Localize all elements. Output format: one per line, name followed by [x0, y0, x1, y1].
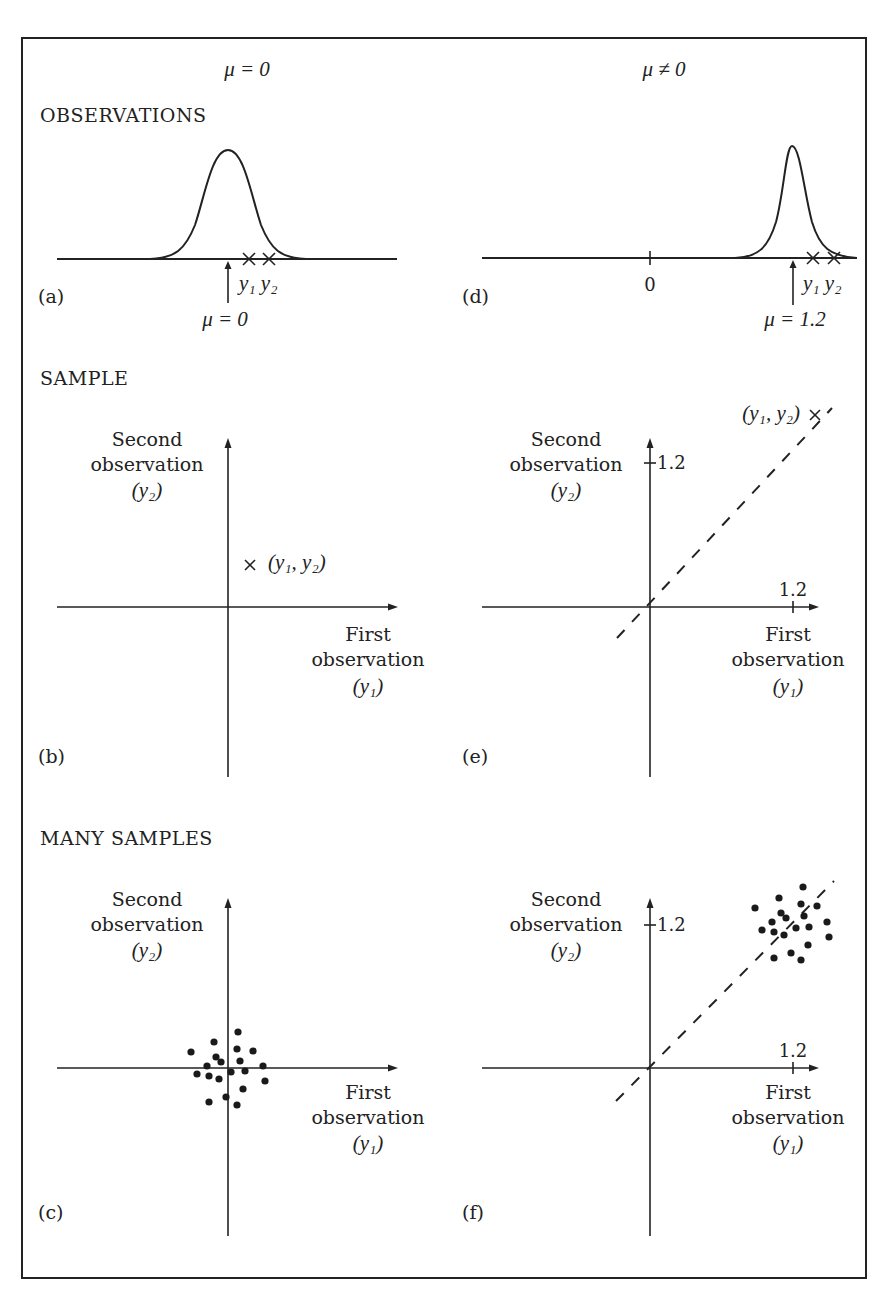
scatter-point: [770, 954, 777, 961]
y-tick-label: 1.2: [657, 914, 686, 935]
panel-d: 0 y₁ y₂ μ = 1.2 (d): [462, 146, 857, 331]
arrowhead-icon: [647, 438, 654, 448]
arrowhead-icon: [388, 604, 398, 611]
y-axis-title-line1: Second: [531, 428, 602, 450]
y-axis-title-line3: (y₂): [551, 478, 582, 502]
scatter-point: [210, 1038, 217, 1045]
section-title-observations: OBSERVATIONS: [40, 104, 207, 126]
x-axis-title-line1: First: [765, 623, 811, 645]
scatter-point: [805, 923, 812, 930]
panel-e: 1.2 1.2 (y₁, y₂) Second observation (y₂)…: [462, 401, 845, 777]
x-axis-title-line2: observation: [731, 648, 844, 670]
section-title-many-samples: MANY SAMPLES: [40, 827, 213, 849]
y-axis-title-line1: Second: [112, 428, 183, 450]
x-axis-title-line2: observation: [311, 1106, 424, 1128]
panel-label-a: (a): [38, 285, 64, 307]
arrowhead-icon: [809, 604, 819, 611]
x-axis-title-line3: (y₁): [353, 674, 384, 698]
scatter-point: [823, 918, 830, 925]
y-axis-title-line3: (y₂): [551, 938, 582, 962]
scatter-point: [239, 1085, 246, 1092]
panel-a: y₁ y₂ μ = 0 (a): [38, 150, 397, 331]
scatter-point: [217, 1058, 224, 1065]
zero-tick-label: 0: [644, 274, 655, 295]
scatter-point: [203, 1062, 210, 1069]
panel-b: Second observation (y₂) First observatio…: [38, 428, 425, 777]
x-axis-title-line1: First: [345, 623, 391, 645]
scatter-point: [751, 904, 758, 911]
scatter-point: [825, 933, 832, 940]
scatter-point: [236, 1057, 243, 1064]
y-axis-title-line3: (y₂): [132, 478, 163, 502]
scatter-point: [768, 918, 775, 925]
sample-point-label: (y₁, y₂): [742, 401, 800, 425]
scatter-point: [205, 1072, 212, 1079]
panel-label-f: (f): [462, 1201, 484, 1223]
arrowhead-icon: [647, 898, 654, 908]
x-axis-title-line1: First: [345, 1081, 391, 1103]
scatter-point: [222, 1093, 229, 1100]
x-axis-title-line2: observation: [731, 1106, 844, 1128]
mean-label: μ = 0: [201, 307, 248, 331]
scatter-point: [775, 894, 782, 901]
y-axis-title-line2: observation: [90, 913, 203, 935]
scatter-point: [780, 931, 787, 938]
scatter-point: [792, 924, 799, 931]
scatter-point: [758, 926, 765, 933]
panel-label-c: (c): [38, 1201, 63, 1223]
arrowhead-icon: [790, 260, 797, 268]
observation-labels: y₁ y₂: [237, 271, 278, 295]
scatter-point: [813, 902, 820, 909]
x-tick-label: 1.2: [779, 1040, 808, 1061]
scatter-point: [233, 1045, 240, 1052]
scatter-point: [261, 1077, 268, 1084]
scatter-point: [259, 1062, 266, 1069]
x-axis-title-line3: (y₁): [773, 674, 804, 698]
panel-label-b: (b): [38, 745, 65, 767]
mean-label: μ = 1.2: [763, 307, 826, 331]
y-axis-title-line1: Second: [112, 888, 183, 910]
scatter-point: [241, 1067, 248, 1074]
x-axis-title-line1: First: [765, 1081, 811, 1103]
sample-point-label: (y₁, y₂): [268, 550, 326, 574]
sample-point-cross-icon: [810, 410, 820, 420]
arrowhead-icon: [225, 898, 232, 908]
arrowhead-icon: [225, 261, 232, 269]
normal-density-curve: [150, 150, 306, 259]
arrowhead-icon: [388, 1065, 398, 1072]
panel-label-e: (e): [462, 745, 488, 767]
scatter-point: [800, 912, 807, 919]
panel-label-d: (d): [462, 285, 489, 307]
y-axis-title-line2: observation: [509, 913, 622, 935]
y-axis-title-line3: (y₂): [132, 938, 163, 962]
scatter-point: [770, 928, 777, 935]
left-column-header: μ = 0: [223, 57, 270, 81]
scatter-point: [249, 1047, 256, 1054]
x-axis-title-line2: observation: [311, 648, 424, 670]
scatter-point: [187, 1048, 194, 1055]
scatter-point: [797, 956, 804, 963]
scatter-point: [234, 1028, 241, 1035]
arrowhead-icon: [225, 438, 232, 448]
y-axis-title-line1: Second: [531, 888, 602, 910]
x-axis-title-line3: (y₁): [773, 1131, 804, 1155]
sample-point-cross-icon: [245, 560, 255, 570]
arrowhead-icon: [809, 1065, 819, 1072]
observation-labels: y₁ y₂: [801, 271, 842, 295]
x-axis-title-line3: (y₁): [353, 1131, 384, 1155]
section-title-sample: SAMPLE: [40, 367, 128, 389]
scatter-point: [233, 1101, 240, 1108]
figure-canvas: μ = 0 μ ≠ 0 OBSERVATIONS SAMPLE MANY SAM…: [0, 0, 894, 1303]
scatter-point: [215, 1075, 222, 1082]
scatter-point: [193, 1070, 200, 1077]
scatter-point: [799, 883, 806, 890]
scatter-point: [782, 914, 789, 921]
y-axis-title-line2: observation: [90, 453, 203, 475]
panel-f: 1.2 1.2 Second observation (y₂) First ob…: [462, 881, 845, 1236]
normal-density-curve: [735, 146, 857, 258]
y-tick-label: 1.2: [657, 452, 686, 473]
scatter-point: [797, 900, 804, 907]
scatter-point: [205, 1098, 212, 1105]
y-axis-title-line2: observation: [509, 453, 622, 475]
scatter-point: [227, 1068, 234, 1075]
